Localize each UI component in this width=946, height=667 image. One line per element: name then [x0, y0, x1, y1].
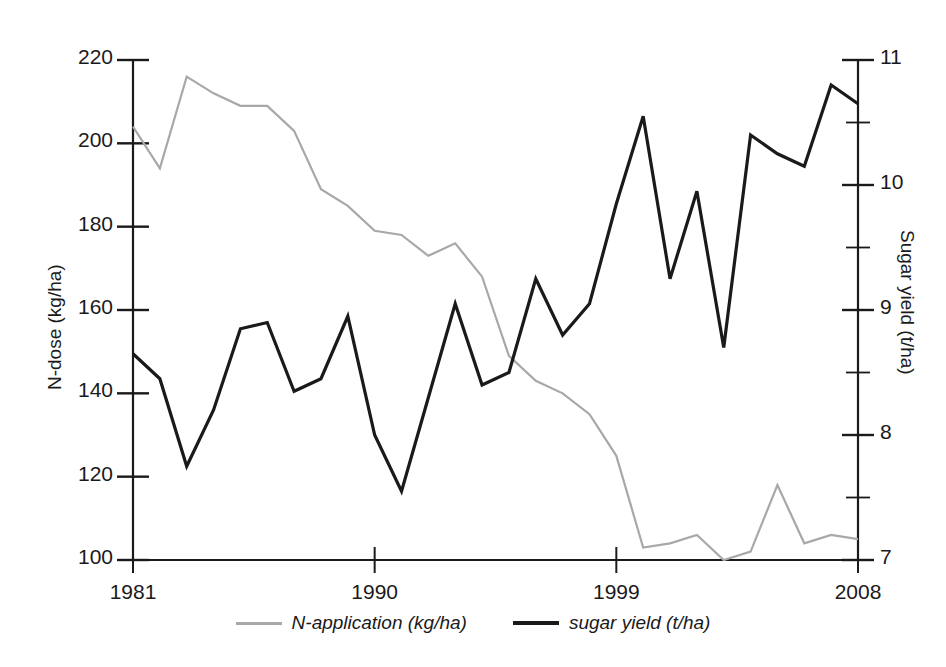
- left-axis-tick-label: 100: [43, 545, 113, 569]
- left-axis-tick-label: 140: [43, 378, 113, 402]
- legend-item: N-application (kg/ha): [236, 612, 467, 634]
- left-axis-title: N-dose (kg/ha): [44, 264, 66, 390]
- legend-item: sugar yield (t/ha): [513, 612, 711, 634]
- legend-line-swatch-black: [513, 621, 559, 625]
- legend-item-label: sugar yield (t/ha): [569, 612, 711, 634]
- x-axis-tick-label: 1999: [561, 580, 671, 604]
- right-axis-tick-label: 10: [880, 170, 920, 194]
- right-axis-tick-label: 7: [880, 545, 920, 569]
- x-axis-tick-label: 2008: [803, 580, 913, 604]
- x-axis-tick-label: 1990: [320, 580, 430, 604]
- right-axis-tick-label: 11: [880, 45, 920, 69]
- chart-legend: N-application (kg/ha)sugar yield (t/ha): [0, 612, 946, 634]
- right-axis-tick-label: 9: [880, 295, 920, 319]
- left-axis-tick-label: 160: [43, 295, 113, 319]
- left-axis-tick-label: 120: [43, 462, 113, 486]
- left-axis-tick-label: 220: [43, 45, 113, 69]
- series-lines: [133, 77, 858, 560]
- left-axis-tick-label: 200: [43, 128, 113, 152]
- legend-item-label: N-application (kg/ha): [292, 612, 467, 634]
- chart-figure: N-dose (kg/ha) Sugar yield (t/ha) 100120…: [0, 0, 946, 667]
- chart-plot-area: [0, 0, 946, 667]
- left-axis-tick-label: 180: [43, 212, 113, 236]
- series-line-sugar-yield: [133, 85, 858, 491]
- right-axis-tick-label: 8: [880, 420, 920, 444]
- legend-line-swatch-gray: [236, 622, 282, 625]
- x-axis-tick-label: 1981: [78, 580, 188, 604]
